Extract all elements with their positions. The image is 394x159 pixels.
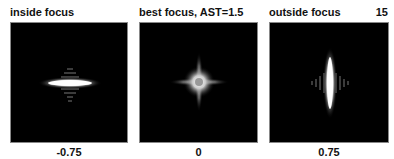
- panel-title-outside-focus: outside focus: [269, 6, 341, 18]
- defocus-label-outside: 0.75: [269, 146, 389, 158]
- psf-image-best-focus: [139, 22, 258, 143]
- psf-cross-pattern: [140, 23, 258, 143]
- psf-image-inside-focus: [10, 22, 128, 143]
- psf-vertical-pattern: [270, 23, 389, 143]
- panel-title-inside-focus: inside focus: [10, 6, 74, 18]
- psf-horizontal-pattern: [11, 23, 128, 143]
- defocus-label-best: 0: [139, 146, 258, 158]
- figure-number: 15: [376, 6, 388, 18]
- defocus-label-inside: -0.75: [10, 146, 128, 158]
- psf-image-outside-focus: [269, 22, 389, 143]
- panel-title-best-focus: best focus, AST=1.5: [139, 6, 243, 18]
